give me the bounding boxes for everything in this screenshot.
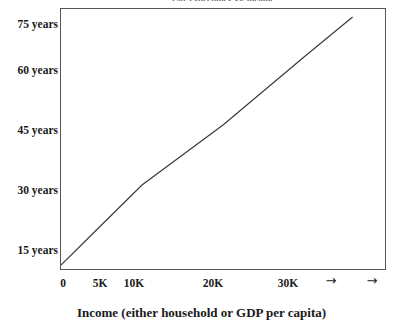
x-axis-tick-20k: 20K: [193, 276, 233, 290]
x-axis-arrow-icon-2: →: [360, 274, 384, 288]
x-axis-tick-30k: 30K: [268, 276, 308, 290]
plot-frame: [60, 8, 386, 270]
y-axis-tick-60: 60 years: [0, 64, 58, 76]
chart-figure: Life expectancy vs. income 75 years 60 y…: [0, 0, 403, 329]
chart-title-clipped: Life expectancy vs. income: [60, 0, 386, 1]
y-axis-tick-45: 45 years: [0, 124, 58, 136]
y-axis-tick-75: 75 years: [0, 18, 58, 30]
y-axis-tick-30: 30 years: [0, 184, 58, 196]
x-axis-tick-10k: 10K: [114, 276, 154, 290]
plot-area: [61, 9, 385, 269]
y-axis-tick-15: 15 years: [0, 244, 58, 256]
data-series-line: [61, 17, 353, 265]
x-axis-tick-0: 0: [43, 276, 83, 290]
x-axis-arrow-icon-1: →: [319, 274, 343, 288]
x-axis-title: Income (either household or GDP per capi…: [0, 305, 403, 321]
